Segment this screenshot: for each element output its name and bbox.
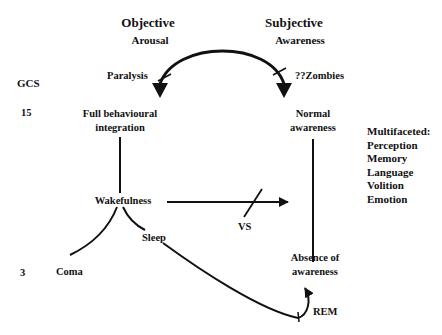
paralysis-arrowhead-icon: [152, 83, 168, 98]
arousal-awareness-arc: [152, 51, 292, 98]
objective-heading: Objective: [121, 16, 174, 29]
arousal-label: Arousal: [131, 35, 168, 46]
wakefulness-coma-branch: [70, 207, 117, 255]
rem-label: REM: [313, 307, 338, 318]
normal-awareness-line1: Normal: [290, 107, 336, 121]
wakefulness-node: Wakefulness: [95, 196, 152, 207]
rem-return-arrow: [298, 288, 309, 318]
sleep-node: Sleep: [142, 233, 166, 244]
absence-line2: awareness: [291, 265, 340, 279]
coma-node: Coma: [56, 267, 83, 278]
aspect-item: Perception: [367, 139, 431, 153]
gcs-low-value: 3: [20, 268, 25, 279]
gcs-label: GCS: [17, 78, 40, 89]
wakefulness-sleep-branch: [123, 207, 145, 230]
aspect-item: Volition: [367, 179, 431, 193]
aspect-item: Language: [367, 166, 431, 180]
aspect-item: Memory: [367, 152, 431, 166]
sleep-rem-curve: [163, 243, 298, 318]
aspects-heading: Multifaceted:: [367, 125, 431, 139]
awareness-aspects-list: Multifaceted: Perception Memory Language…: [367, 125, 431, 207]
vs-label: VS: [238, 222, 251, 233]
awareness-label: Awareness: [275, 35, 325, 46]
absence-line1: Absence of: [291, 251, 340, 265]
gcs-high-value: 15: [21, 108, 32, 119]
full-behavioural-integration-node: Full behavioural integration: [83, 107, 157, 135]
paralysis-label: Paralysis: [107, 71, 148, 82]
normal-awareness-node: Normal awareness: [290, 107, 336, 135]
normal-awareness-line2: awareness: [290, 121, 336, 135]
subjective-heading: Subjective: [265, 16, 323, 29]
absence-of-awareness-node: Absence of awareness: [291, 251, 340, 279]
aspect-item: Emotion: [367, 193, 431, 207]
full-integration-line2: integration: [83, 121, 157, 135]
zombies-arrowhead-icon: [276, 83, 292, 98]
zombies-label: ??Zombies: [295, 71, 344, 82]
full-integration-line1: Full behavioural: [83, 107, 157, 121]
